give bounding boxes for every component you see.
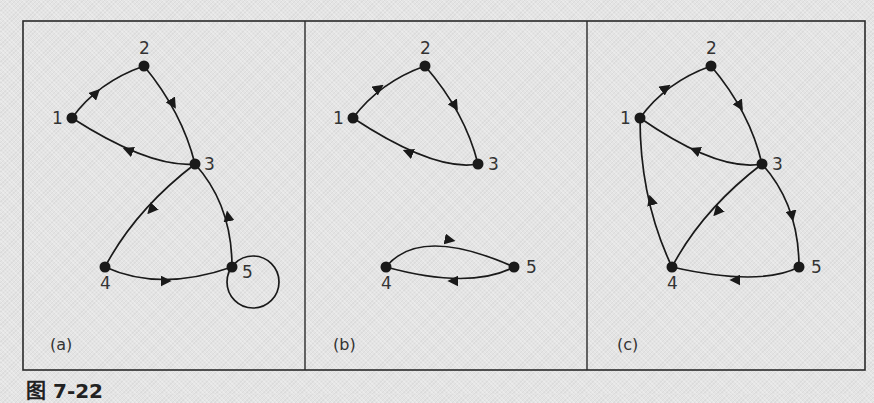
node-label: 1 <box>52 108 63 128</box>
edge-3-1 <box>72 118 195 164</box>
figure-caption: 图 7-22 <box>26 381 103 401</box>
node-c-4 <box>667 262 678 273</box>
node-label: 5 <box>526 257 537 277</box>
node-label: 3 <box>488 154 499 174</box>
node-label: 1 <box>620 108 631 128</box>
node-label: 5 <box>242 262 253 282</box>
node-label: 4 <box>381 273 392 293</box>
node-c-3 <box>757 159 768 170</box>
node-a-2 <box>139 61 150 72</box>
node-b-5 <box>509 262 520 273</box>
edge-3-5 <box>762 164 799 267</box>
node-c-1 <box>635 113 646 124</box>
edge-2-3 <box>425 66 478 164</box>
edge-2-3 <box>711 66 762 164</box>
edge-1-2 <box>72 66 144 118</box>
node-c-2 <box>706 61 717 72</box>
node-b-3 <box>473 159 484 170</box>
node-label: 3 <box>772 154 783 174</box>
edge-5-4 <box>672 267 799 277</box>
node-label: 5 <box>811 257 822 277</box>
edge-4-5 <box>105 267 232 280</box>
edge-3-1 <box>640 118 762 165</box>
edge-5-3 <box>195 164 232 267</box>
node-b-2 <box>420 61 431 72</box>
edge-3-4 <box>105 164 195 267</box>
panel-label-b: (b) <box>333 335 356 354</box>
edge-3-1 <box>353 118 478 165</box>
node-c-5 <box>794 262 805 273</box>
edge-4-1 <box>640 118 672 267</box>
node-b-1 <box>348 113 359 124</box>
node-a-1 <box>67 113 78 124</box>
node-label: 1 <box>333 108 344 128</box>
panel-label-a: (a) <box>50 335 72 354</box>
node-label: 4 <box>100 273 111 293</box>
node-label: 2 <box>139 38 150 58</box>
node-label: 3 <box>204 154 215 174</box>
edge-4-5 <box>386 246 514 267</box>
edge-3-4 <box>672 164 762 267</box>
edge-1-2 <box>640 66 711 118</box>
edge-2-3 <box>144 66 195 164</box>
node-label: 2 <box>706 38 717 58</box>
node-a-5 <box>227 262 238 273</box>
edge-5-4 <box>386 267 514 279</box>
node-a-3 <box>190 159 201 170</box>
node-a-4 <box>100 262 111 273</box>
edge-1-2 <box>353 66 425 118</box>
node-b-4 <box>381 262 392 273</box>
panel-label-c: (c) <box>617 335 638 354</box>
nodes-layer: 123451234512345 <box>52 38 822 293</box>
node-label: 2 <box>420 38 431 58</box>
node-label: 4 <box>667 273 678 293</box>
